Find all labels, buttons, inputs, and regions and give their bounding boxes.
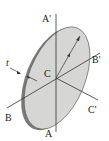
label-b: B xyxy=(5,113,12,123)
label-thickness-t: t xyxy=(6,58,9,68)
label-a: A xyxy=(45,129,52,139)
disk-drawing xyxy=(0,0,109,141)
label-a-prime: A' xyxy=(42,14,51,24)
disk-diagram: A' A B B' C' C t xyxy=(0,0,109,141)
label-center-c: C xyxy=(44,69,51,79)
label-c-prime: C' xyxy=(88,105,96,115)
label-b-prime: B' xyxy=(92,55,100,65)
